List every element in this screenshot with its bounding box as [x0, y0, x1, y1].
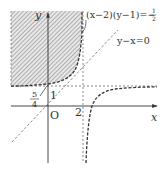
y-axis-label: y [34, 9, 42, 22]
origin-label: O [50, 109, 59, 122]
curve-equation-rhs-denominator: 2 [152, 15, 156, 22]
y-intercept-numerator: 5 [32, 90, 37, 99]
line-equation-label: y−x=0 [116, 35, 150, 46]
tick-label-y-1: 1 [50, 89, 57, 102]
y-intercept-denominator: 4 [32, 100, 37, 109]
tick-label-x-2: 2 [75, 106, 82, 119]
curve-equation-rhs-numerator: 1 [152, 7, 156, 14]
curve-equation-label: (x−2)(y−1)=− [86, 9, 155, 20]
figure: y x O 2 1 5 4 (x−2)(y−1)=− 1 2 y−x=0 [0, 0, 168, 170]
hyperbola-lower-branch [86, 87, 157, 163]
x-axis-label: x [151, 111, 158, 124]
intercept-label-leader [40, 85, 48, 96]
